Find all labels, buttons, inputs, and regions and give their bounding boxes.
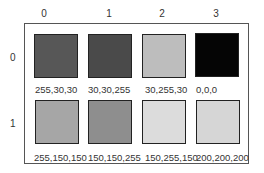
color-swatch [142,34,186,78]
row-label: 1 [10,118,16,129]
swatch-caption: 30,30,255 [88,84,130,95]
color-swatch [35,100,79,144]
swatch-caption: 255,150,150 [34,152,87,163]
swatch-caption: 200,200,200 [196,152,249,163]
swatch-caption: 0,0,0 [196,84,217,95]
color-swatch [88,100,132,144]
swatch-caption: 150,255,150 [145,152,198,163]
column-label: 1 [99,8,119,19]
color-swatch [195,33,239,77]
swatch-caption: 150,150,255 [88,152,141,163]
row-label: 0 [10,52,16,63]
color-swatch [34,34,78,78]
swatch-caption: 30,255,30 [145,84,187,95]
color-swatch [196,100,240,144]
column-label: 0 [34,8,54,19]
color-swatch [88,34,132,78]
color-swatch [142,100,186,144]
column-label: 2 [152,8,172,19]
column-label: 3 [206,8,226,19]
swatch-caption: 255,30,30 [35,84,77,95]
